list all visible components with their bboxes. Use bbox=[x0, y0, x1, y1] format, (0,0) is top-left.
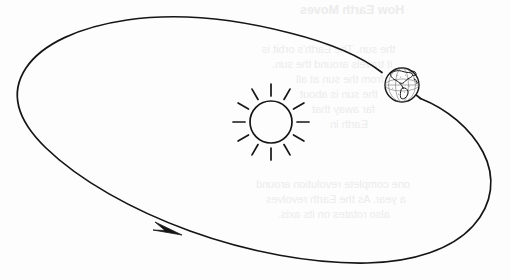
sun-ray bbox=[252, 89, 258, 99]
orbit-direction-arrowhead bbox=[153, 222, 182, 235]
sun-ray bbox=[294, 135, 304, 141]
sun-ray bbox=[238, 135, 248, 141]
sun-group bbox=[233, 84, 309, 160]
earth-group bbox=[385, 68, 419, 102]
sun-ray bbox=[238, 103, 248, 109]
sun-ray bbox=[284, 145, 290, 155]
sun-ray bbox=[294, 103, 304, 109]
sun-ray bbox=[252, 145, 258, 155]
sun-ray bbox=[284, 89, 290, 99]
orbit-ellipse-arc-main bbox=[17, 17, 490, 263]
earth-orbit-figure bbox=[0, 0, 510, 280]
orbit-path-group bbox=[17, 17, 490, 263]
orbit-diagram-canvas: How Earth Movesthe sun. The Earth's orbi… bbox=[0, 0, 510, 280]
sun-disc bbox=[250, 101, 292, 143]
